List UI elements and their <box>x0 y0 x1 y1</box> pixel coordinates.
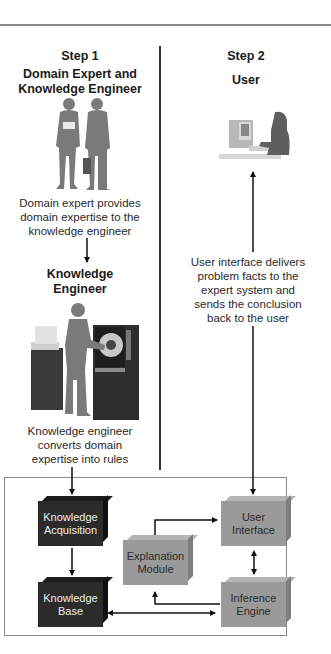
connector-arrows <box>0 0 331 654</box>
arrow-inference-to-explanation <box>155 592 220 604</box>
arrow-explanation-to-ui <box>155 520 217 535</box>
